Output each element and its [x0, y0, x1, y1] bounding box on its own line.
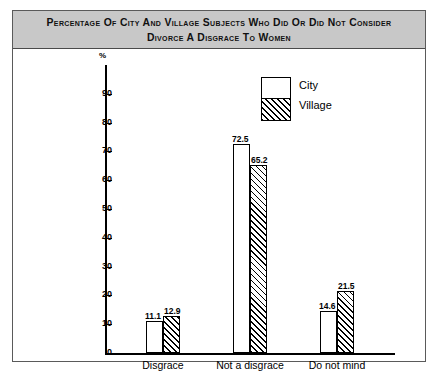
y-axis-tick-label: 60	[38, 174, 112, 184]
chart-title-banner: Percentage of City and Village Subjects …	[13, 11, 425, 49]
y-axis-tick-label: 90	[38, 88, 112, 98]
chart-plot-area: % 0102030405060708090 11.112.972.565.214…	[13, 49, 425, 361]
bar-value-label: 12.9	[164, 306, 181, 316]
bar-city-do-not-mind[interactable]: 14.6	[320, 311, 337, 353]
bar-value-label: 11.1	[145, 311, 161, 321]
bar-value-label: 72.5	[232, 134, 249, 144]
y-axis-tick-label: 40	[38, 232, 112, 242]
legend-label-city: City	[299, 79, 318, 91]
bar-group: 11.112.9	[146, 65, 180, 353]
chart-figure: Percentage of City and Village Subjects …	[12, 10, 426, 362]
y-axis-tick-label: 0	[38, 347, 112, 357]
y-axis-unit-label: %	[99, 51, 106, 60]
y-axis-tick-label: 70	[38, 145, 112, 155]
x-axis-label-do-not-mind: Do not mind	[309, 359, 366, 371]
y-axis-tick-mark	[107, 353, 112, 354]
legend-swatch-box	[261, 77, 291, 121]
bar-city-not-a-disgrace[interactable]: 72.5	[233, 144, 250, 353]
bar-village-disgrace[interactable]: 12.9	[163, 316, 180, 353]
bar-village-do-not-mind[interactable]: 21.5	[337, 291, 354, 353]
chart-legend: City Village	[261, 77, 357, 123]
x-axis-label-disgrace: Disgrace	[142, 359, 183, 371]
y-axis-tick-label: 20	[38, 289, 112, 299]
legend-label-village: Village	[299, 99, 332, 111]
x-axis-line	[105, 353, 395, 355]
bar-village-not-a-disgrace[interactable]: 65.2	[250, 165, 267, 353]
bar-value-label: 21.5	[338, 281, 355, 291]
y-axis-tick-label: 10	[38, 318, 112, 328]
legend-swatch-village	[262, 99, 290, 120]
y-axis-tick-label: 50	[38, 203, 112, 213]
bar-value-label: 14.6	[319, 301, 336, 311]
y-axis-tick-label: 80	[38, 117, 112, 127]
chart-title-line-2: Divorce a Disgrace to Women	[147, 30, 291, 45]
bar-value-label: 65.2	[251, 155, 268, 165]
legend-swatch-city	[262, 78, 290, 99]
y-axis-tick-label: 30	[38, 261, 112, 271]
chart-title-line-1: Percentage of City and Village Subjects …	[47, 15, 392, 30]
bar-city-disgrace[interactable]: 11.1	[146, 321, 163, 353]
x-axis-label-not-a-disgrace: Not a disgrace	[216, 359, 284, 371]
